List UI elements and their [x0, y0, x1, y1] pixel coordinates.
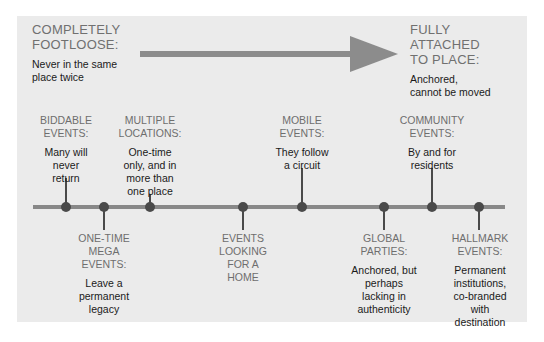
timeline-dot-community [427, 202, 437, 212]
event-community: COMMUNITY EVENTS: By and for residents [387, 114, 477, 172]
event-title-line: LOCATIONS: [105, 127, 195, 140]
event-mobile: MOBILE EVENTS: They follow a circuit [262, 114, 342, 172]
right-end-desc: Anchored, cannot be moved [410, 73, 491, 99]
event-looking-for-home: EVENTS LOOKING FOR A HOME [203, 232, 283, 284]
left-end-title-line: COMPLETELY [32, 22, 120, 37]
event-title-line: PARTIES: [339, 245, 429, 258]
event-title-line: HOME [203, 271, 283, 284]
event-title-line: BIDDABLE [26, 114, 106, 127]
event-desc-line: Permanent [439, 264, 521, 277]
right-arrow-icon [138, 34, 400, 74]
event-title: EVENTS LOOKING FOR A HOME [203, 232, 283, 284]
event-desc-line: with [439, 303, 521, 316]
event-desc-line: lacking in [339, 290, 429, 303]
event-title: MOBILE EVENTS: [262, 114, 342, 140]
event-desc: Anchored, but perhaps lacking in authent… [339, 264, 429, 316]
event-title-line: HALLMARK [439, 232, 521, 245]
event-title-line: EVENTS: [387, 127, 477, 140]
event-desc-line: return [26, 172, 106, 185]
timeline-dot-looking-for-home [238, 202, 248, 212]
timeline-dot-hallmark [474, 202, 484, 212]
event-title-line: MULTIPLE [105, 114, 195, 127]
left-end-title-line: FOOTLOOSE: [32, 37, 120, 52]
event-title: HALLMARK EVENTS: [439, 232, 521, 258]
event-desc: They follow a circuit [262, 146, 342, 172]
event-desc-line: never [26, 159, 106, 172]
event-desc-line: They follow [262, 146, 342, 159]
stem-mobile [301, 168, 303, 206]
timeline-dot-one-time-mega [99, 202, 109, 212]
right-end-title-line: FULLY [410, 22, 491, 37]
event-one-time-mega: ONE-TIME MEGA EVENTS: Leave a permanent … [64, 232, 144, 316]
event-biddable: BIDDABLE EVENTS: Many will never return [26, 114, 106, 185]
event-title-line: EVENTS [203, 232, 283, 245]
event-desc-line: institutions, [439, 277, 521, 290]
event-desc-line: a circuit [262, 159, 342, 172]
event-desc-line: destination [439, 316, 521, 329]
event-desc-line: legacy [64, 303, 144, 316]
event-global-parties: GLOBAL PARTIES: Anchored, but perhaps la… [339, 232, 429, 316]
timeline-dot-multiple-locations [145, 202, 155, 212]
event-desc-line: co-branded [439, 290, 521, 303]
left-end-desc-line: place twice [32, 71, 120, 84]
event-desc: One-time only, and in more than one plac… [105, 146, 195, 198]
right-end-title-line: TO PLACE: [410, 52, 491, 67]
right-end-desc-line: cannot be moved [410, 86, 491, 99]
timeline-dot-mobile [297, 202, 307, 212]
event-hallmark: HALLMARK EVENTS: Permanent institutions,… [439, 232, 521, 329]
event-title-line: EVENTS: [64, 258, 144, 271]
event-desc: Many will never return [26, 146, 106, 185]
stem-community [431, 168, 433, 206]
left-end-title: COMPLETELY FOOTLOOSE: [32, 22, 120, 52]
event-title: ONE-TIME MEGA EVENTS: [64, 232, 144, 271]
timeline-dot-global-parties [379, 202, 389, 212]
event-desc-line: one place [105, 185, 195, 198]
left-end-desc-line: Never in the same [32, 58, 120, 71]
event-desc-line: Many will [26, 146, 106, 159]
event-title: BIDDABLE EVENTS: [26, 114, 106, 140]
event-title-line: LOOKING [203, 245, 283, 258]
event-multiple-locations: MULTIPLE LOCATIONS: One-time only, and i… [105, 114, 195, 198]
event-desc-line: One-time [105, 146, 195, 159]
timeline-dot-biddable [61, 202, 71, 212]
event-title-line: MEGA [64, 245, 144, 258]
right-end-desc-line: Anchored, [410, 73, 491, 86]
event-desc-line: perhaps [339, 277, 429, 290]
event-desc-line: permanent [64, 290, 144, 303]
event-title-line: MOBILE [262, 114, 342, 127]
event-title: COMMUNITY EVENTS: [387, 114, 477, 140]
event-desc: Leave a permanent legacy [64, 277, 144, 316]
event-desc: Permanent institutions, co-branded with … [439, 264, 521, 329]
event-title-line: FOR A [203, 258, 283, 271]
right-end-title: FULLY ATTACHED TO PLACE: [410, 22, 491, 67]
event-title: GLOBAL PARTIES: [339, 232, 429, 258]
event-title-line: ONE-TIME [64, 232, 144, 245]
left-end-desc: Never in the same place twice [32, 58, 120, 84]
right-end-title-line: ATTACHED [410, 37, 491, 52]
event-desc: By and for residents [387, 146, 477, 172]
event-desc-line: authenticity [339, 303, 429, 316]
event-desc-line: more than [105, 172, 195, 185]
event-desc-line: only, and in [105, 159, 195, 172]
event-title-line: EVENTS: [439, 245, 521, 258]
event-desc-line: Leave a [64, 277, 144, 290]
event-title: MULTIPLE LOCATIONS: [105, 114, 195, 140]
event-title-line: EVENTS: [26, 127, 106, 140]
event-desc-line: Anchored, but [339, 264, 429, 277]
right-end-label: FULLY ATTACHED TO PLACE: Anchored, canno… [410, 22, 491, 99]
event-desc-line: By and for [387, 146, 477, 159]
event-title-line: COMMUNITY [387, 114, 477, 127]
event-title-line: EVENTS: [262, 127, 342, 140]
event-title-line: GLOBAL [339, 232, 429, 245]
left-end-label: COMPLETELY FOOTLOOSE: Never in the same … [32, 22, 120, 84]
event-desc-line: residents [387, 159, 477, 172]
